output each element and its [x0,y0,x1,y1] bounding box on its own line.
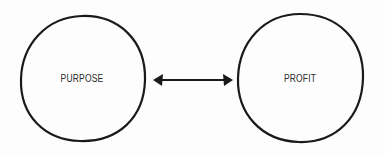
diagram-shapes [0,0,385,154]
diagram-canvas: PURPOSE PROFIT [0,0,385,154]
bidirectional-arrow-icon [153,74,233,86]
purpose-label: PURPOSE [61,73,104,84]
profit-label: PROFIT [284,73,316,84]
